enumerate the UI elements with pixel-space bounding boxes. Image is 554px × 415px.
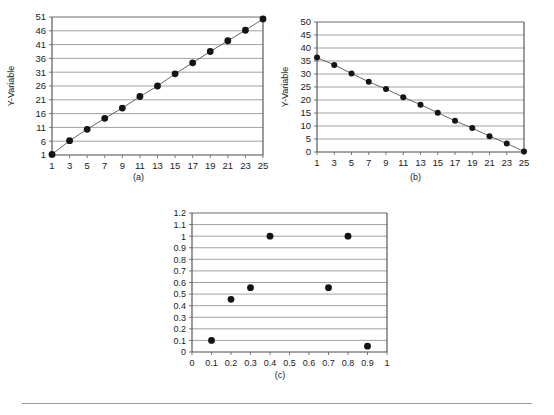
x-tick-label: 5 <box>85 160 90 171</box>
y-axis-title: Y-Variable <box>280 67 290 108</box>
data-point-marker <box>345 233 352 240</box>
y-tick-label: 51 <box>35 11 46 22</box>
x-tick-label: 21 <box>484 157 495 168</box>
y-tick-label: 41 <box>35 39 46 50</box>
x-tick-label: 0.6 <box>303 358 316 368</box>
data-point-marker <box>172 70 179 77</box>
data-point-marker <box>84 126 91 133</box>
data-point-marker <box>366 79 372 85</box>
data-point-marker <box>101 115 108 122</box>
y-tick-label: 1.1 <box>173 220 186 230</box>
y-tick-label: 46 <box>35 25 46 36</box>
y-tick-label: 0.8 <box>173 255 186 265</box>
figure-canvas: 1611162126313641465113579111315171921232… <box>0 0 554 415</box>
y-tick-label: 11 <box>36 122 46 133</box>
y-tick-label: 0.9 <box>173 243 186 253</box>
data-point-marker <box>207 48 214 55</box>
x-tick-label: 13 <box>415 157 426 168</box>
data-point-marker <box>400 94 406 100</box>
x-tick-label: 23 <box>501 157 512 168</box>
chart-panel-b: 0510152025303540455013579111315171921232… <box>277 0 554 200</box>
y-tick-label: 5 <box>306 133 311 144</box>
y-tick-label: 20 <box>300 94 311 105</box>
data-point-marker <box>49 151 56 158</box>
y-tick-label: 6 <box>41 136 46 147</box>
data-point-marker <box>119 105 126 112</box>
x-tick-label: 0.4 <box>264 358 277 368</box>
y-tick-label: 0.2 <box>173 324 186 334</box>
chart-a-plot: 1611162126313641465113579111315171921232… <box>0 0 277 175</box>
x-tick-label: 25 <box>519 157 530 168</box>
x-tick-label: 0 <box>189 358 194 368</box>
x-tick-label: 17 <box>187 160 198 171</box>
data-point-marker <box>154 83 161 90</box>
chart-panel-a: 1611162126313641465113579111315171921232… <box>0 0 277 200</box>
x-tick-label: 17 <box>450 157 461 168</box>
data-point-marker <box>349 70 355 76</box>
x-tick-label: 15 <box>432 157 443 168</box>
y-tick-label: 30 <box>300 68 311 79</box>
x-tick-label: 1 <box>49 160 54 171</box>
y-tick-label: 0.7 <box>173 266 186 276</box>
x-tick-label: 25 <box>258 160 269 171</box>
x-tick-label: 7 <box>102 160 107 171</box>
data-point-marker <box>242 27 249 34</box>
chart-c-plot: 00.10.20.30.40.50.60.70.80.911.11.200.10… <box>130 200 430 372</box>
data-point-marker <box>487 133 493 139</box>
x-tick-label: 11 <box>135 160 145 171</box>
data-point-marker <box>137 93 144 100</box>
data-point-marker <box>521 148 527 154</box>
data-point-marker <box>189 59 196 66</box>
data-point-marker <box>267 233 274 240</box>
chart-b-plot: 0510152025303540455013579111315171921232… <box>277 0 554 175</box>
data-point-marker <box>314 55 320 61</box>
panel-a-caption: (a) <box>0 172 277 182</box>
x-tick-label: 1 <box>314 157 319 168</box>
x-tick-label: 0.8 <box>342 358 355 368</box>
y-tick-label: 15 <box>300 107 311 118</box>
data-point-marker <box>331 62 337 68</box>
y-tick-label: 0.5 <box>173 289 186 299</box>
footer-divider <box>22 403 532 404</box>
y-tick-label: 21 <box>35 94 46 105</box>
y-tick-label: 50 <box>300 16 311 27</box>
x-tick-label: 0.9 <box>361 358 374 368</box>
y-tick-label: 45 <box>300 29 311 40</box>
x-tick-label: 0.3 <box>244 358 257 368</box>
x-tick-label: 7 <box>366 157 371 168</box>
x-tick-label: 0.2 <box>225 358 238 368</box>
data-point-marker <box>325 284 332 291</box>
y-tick-label: 0 <box>181 347 186 357</box>
panel-b-caption: (b) <box>277 172 554 182</box>
data-point-marker <box>228 296 235 303</box>
x-tick-label: 9 <box>120 160 125 171</box>
y-tick-label: 1 <box>41 149 46 160</box>
y-tick-label: 0.6 <box>173 278 186 288</box>
x-tick-label: 9 <box>383 157 388 168</box>
data-point-marker <box>435 110 441 116</box>
panel-c-caption: (c) <box>130 370 430 380</box>
y-tick-label: 0.3 <box>173 313 186 323</box>
y-tick-label: 36 <box>35 53 46 64</box>
y-tick-label: 0 <box>306 146 311 157</box>
data-point-marker <box>224 37 231 44</box>
y-axis-title: Y-Variable <box>6 66 16 107</box>
y-tick-label: 26 <box>35 80 46 91</box>
data-point-marker <box>504 140 510 146</box>
x-tick-label: 3 <box>332 157 337 168</box>
data-point-marker <box>247 284 254 291</box>
y-tick-label: 1.2 <box>173 208 186 218</box>
x-tick-label: 15 <box>170 160 181 171</box>
y-tick-label: 25 <box>300 81 311 92</box>
y-tick-label: 31 <box>35 67 46 78</box>
x-tick-label: 19 <box>467 157 478 168</box>
data-point-marker <box>66 137 73 144</box>
y-tick-label: 10 <box>300 120 311 131</box>
x-tick-label: 5 <box>349 157 354 168</box>
y-tick-label: 0.1 <box>173 336 186 346</box>
y-tick-label: 16 <box>35 108 46 119</box>
data-point-marker <box>260 16 267 23</box>
data-point-marker <box>364 343 371 350</box>
x-tick-label: 1 <box>384 358 389 368</box>
x-tick-label: 23 <box>240 160 251 171</box>
